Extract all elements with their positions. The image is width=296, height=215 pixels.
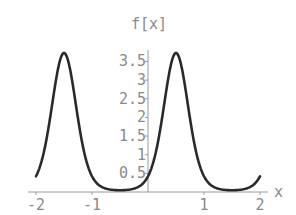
plot-canvas: f[x] 0.511.522.533.5 -2-112 x [0,0,296,215]
y-tick-label: 0.5 [119,164,146,182]
x-tick-label: -2 [27,196,45,214]
x-axis-ticks: -2-112 [27,192,265,214]
x-tick-label: 1 [199,196,208,214]
axes [28,50,268,192]
y-tick-label: 3 [137,71,146,89]
y-tick-label: 2 [137,108,146,126]
y-tick-label: 2.5 [119,90,146,108]
plot-title: f[x] [131,15,167,33]
x-tick-label: 2 [255,196,264,214]
y-tick-label: 3.5 [119,52,146,70]
y-tick-label: 1.5 [119,127,146,145]
x-axis-label: x [274,183,283,201]
y-tick-label: 1 [137,146,146,164]
y-axis-ticks: 0.511.522.533.5 [119,52,148,182]
x-tick-label: -1 [83,196,101,214]
